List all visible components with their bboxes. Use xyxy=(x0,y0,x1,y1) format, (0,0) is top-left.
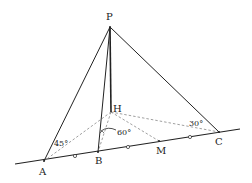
tick-circle xyxy=(188,135,191,138)
label-P: P xyxy=(106,11,113,22)
angle-label-B: 60° xyxy=(117,128,131,137)
angle-arc-B xyxy=(101,128,116,131)
edge-PH xyxy=(110,27,111,112)
edge-PB xyxy=(98,27,110,152)
point-P xyxy=(109,26,111,28)
label-C: C xyxy=(215,136,223,147)
pyramid-diagram: P H A B M C 45° 60° 30° xyxy=(0,0,252,183)
angle-label-C: 30° xyxy=(189,119,203,128)
point-A xyxy=(43,160,45,162)
label-A: A xyxy=(38,166,47,177)
label-M: M xyxy=(156,145,166,156)
solid-edges xyxy=(44,27,219,161)
tick-marks xyxy=(73,135,191,157)
edge-PC xyxy=(110,27,219,132)
angle-label-A: 45° xyxy=(54,139,68,148)
point-M xyxy=(158,140,160,142)
label-H: H xyxy=(113,103,122,114)
point-dots xyxy=(43,26,220,162)
tick-circle xyxy=(126,145,129,148)
point-B xyxy=(97,151,99,153)
point-C xyxy=(218,131,220,133)
right-angle-mark-B xyxy=(100,131,104,133)
label-B: B xyxy=(95,155,102,166)
tick-circle xyxy=(73,154,76,157)
